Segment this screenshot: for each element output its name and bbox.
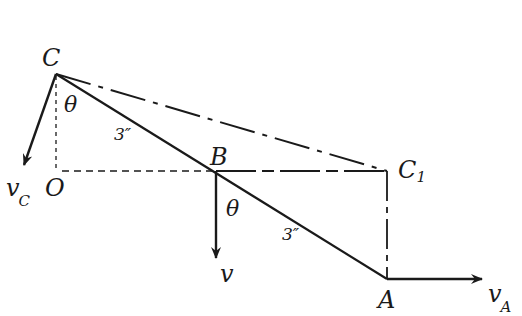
vector-label-vb: v	[220, 260, 234, 288]
angle-label-theta-c: θ	[64, 92, 77, 117]
point-label-c: C	[42, 44, 60, 72]
point-label-b: B	[209, 143, 228, 171]
rod-c-a	[56, 74, 387, 279]
angle-label-theta-b: θ	[226, 196, 239, 221]
kinematics-diagram: C O B C1 A θ θ 3″ 3″ vC v vA	[0, 0, 522, 316]
vector-label-vc: vC	[6, 174, 31, 210]
velocity-vector-c	[24, 74, 56, 165]
point-label-o: O	[45, 174, 65, 202]
length-label-ba: 3″	[282, 224, 300, 244]
point-label-a: A	[376, 286, 395, 314]
point-label-c1: C1	[398, 156, 426, 186]
length-label-cb: 3″	[114, 124, 132, 144]
vector-label-va: vA	[488, 280, 512, 316]
